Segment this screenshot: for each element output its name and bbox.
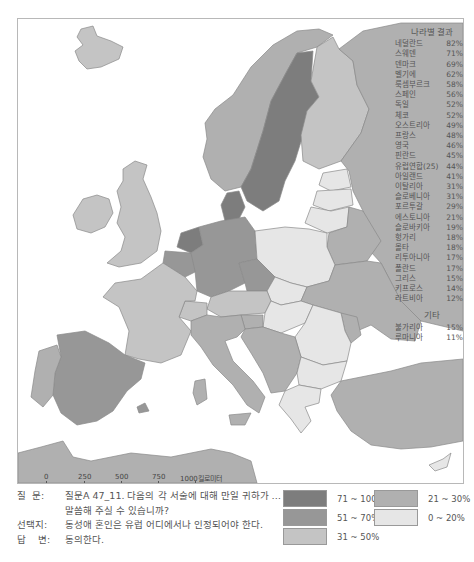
region-greece [279,385,321,433]
legend-swatch [283,528,327,545]
other-title: 기타 [395,310,463,320]
result-row: 체코52% [395,111,463,121]
question-text-cont: 말씀해 주실 수 있습니까? [17,504,281,519]
region-balearic [137,403,149,413]
result-row: 포르투갈29% [395,202,463,212]
result-row: 루마니아11% [395,333,463,343]
result-row: 헝가리18% [395,233,463,243]
result-row: 리투아니아17% [395,253,463,263]
result-row: 키프로스14% [395,284,463,294]
result-row: 유럽연합(25)44% [395,162,463,172]
region-austria [207,291,271,317]
results-title: 나라별 결과 [395,27,463,37]
scale-km-label: 1000킬로미터 [180,473,222,483]
result-row: 이탈리아31% [395,182,463,192]
result-row: 룩셈부르크58% [395,80,463,90]
legend-item: 51 ~ 70% [283,509,379,526]
caption: 질 문:질문A 47_11. 다음의 각 서술에 대해 만일 귀하가 … 말씀해… [17,489,281,547]
legend-item: 21 ~ 30% [374,490,470,507]
result-row: 그리스15% [395,274,463,284]
country-results: 나라별 결과 네덜란드82% 스웨덴71% 덴마크69% 벨기에62% 룩셈부르… [395,27,463,343]
result-row: 핀란드45% [395,151,463,161]
region-iceland [75,26,123,69]
scale-km-label: 500 [115,473,128,481]
answer-text: 동의한다. [65,533,104,548]
result-row: 스페인56% [395,90,463,100]
result-row: 독일52% [395,100,463,110]
scale-tick [121,481,122,484]
result-row: 네덜란드82% [395,39,463,49]
region-estonia [319,169,351,191]
result-row: 덴마크69% [395,60,463,70]
scale-km-label: 0 [44,473,48,481]
result-row: 슬로바키아19% [395,223,463,233]
region-sicily [229,413,251,425]
question-text: 질문A 47_11. 다음의 각 서술에 대해 만일 귀하가 … [65,489,281,504]
result-row: 벨기에62% [395,70,463,80]
result-row: 라트비아12% [395,294,463,304]
scale-tick [84,481,85,484]
region-united-kingdom [107,161,161,267]
legend-swatch [283,490,327,507]
scale-tick [158,481,159,484]
region-cyprus [429,453,451,471]
legend-item: 0 ~ 20% [374,509,465,526]
scale-tick [46,481,47,484]
scale-km-label: 250 [78,473,91,481]
legend-item: 71 ~ 100% [283,490,385,507]
statement-key: 선택지: [17,518,65,533]
legend-item: 31 ~ 50% [283,528,379,545]
result-row: 오스트리아49% [395,121,463,131]
result-row: 불가리아15% [395,323,463,333]
result-row: 슬로베니아31% [395,192,463,202]
legend-swatch [374,509,418,526]
scale-km-label: 750 [152,473,165,481]
legend-swatch [283,509,327,526]
result-row: 폴란드17% [395,264,463,274]
result-row: 스웨덴71% [395,49,463,59]
result-row: 에스토니아21% [395,213,463,223]
scale-bar: 0 250 500 750 1000킬로미터 0 250 500마일 [44,476,214,484]
statement-text: 동성애 혼인은 유럽 어디에서나 인정되어야 한다. [65,518,263,533]
region-turkey [331,359,463,449]
question-key: 질 문: [17,489,65,504]
region-sardinia [193,379,207,405]
answer-key: 답 변: [17,533,65,548]
result-row: 프랑스48% [395,131,463,141]
result-row: 아일랜드41% [395,172,463,182]
legend-swatch [374,490,418,507]
result-row: 몰타18% [395,243,463,253]
region-ireland [73,195,113,233]
result-row: 영국46% [395,141,463,151]
